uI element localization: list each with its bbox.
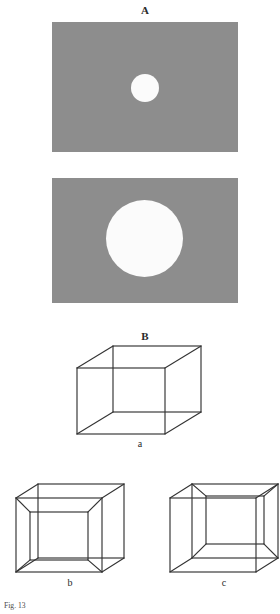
part-b-label: B bbox=[0, 330, 280, 342]
part-a-label: A bbox=[0, 4, 280, 16]
gray-panel-small-circle bbox=[52, 22, 238, 152]
cube-c-caption: c bbox=[168, 577, 280, 588]
gray-panel-large-circle bbox=[52, 178, 238, 303]
white-circle-large bbox=[106, 200, 183, 277]
necker-cube-b-drawing bbox=[14, 482, 126, 574]
necker-cube-a: a bbox=[75, 344, 205, 436]
necker-cube-c: c bbox=[168, 482, 280, 574]
necker-cube-a-drawing bbox=[75, 344, 205, 436]
figure-caption: Fig. 13 bbox=[4, 601, 276, 610]
cube-a-caption: a bbox=[75, 438, 205, 449]
necker-cube-c-drawing bbox=[168, 482, 280, 574]
white-circle-small bbox=[131, 74, 159, 102]
figure-container: A B a bbox=[0, 0, 280, 614]
necker-cube-b: b bbox=[14, 482, 126, 574]
cube-b-caption: b bbox=[14, 577, 126, 588]
